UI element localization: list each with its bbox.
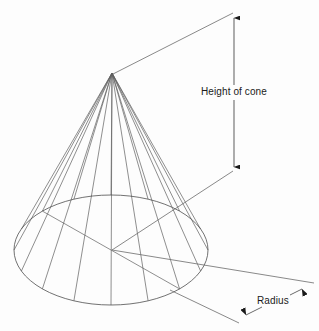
cone-generator-lines (14, 73, 208, 305)
radius-arrow-line-left (246, 307, 262, 315)
radius-label: Radius (257, 295, 289, 306)
cone-diagram: Height of cone Radius (0, 0, 319, 331)
cone-vector-graphic (0, 0, 319, 331)
radius-leader-upper (112, 250, 314, 283)
height-leader-bottom (112, 171, 233, 250)
height-leader-top (113, 13, 233, 74)
height-of-cone-label: Height of cone (201, 86, 267, 97)
radius-dimension (112, 250, 314, 323)
radius-arrow-line-right (290, 289, 302, 295)
radius-leader-lower (170, 290, 239, 323)
